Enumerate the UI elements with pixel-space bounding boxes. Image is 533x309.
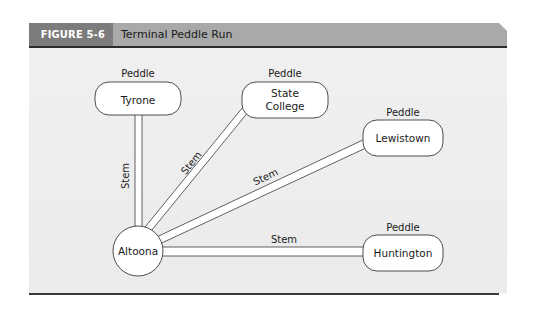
edge-label-huntington: Stem xyxy=(271,234,297,245)
node-lewistown: Lewistown Peddle xyxy=(363,107,443,156)
node-state-college: State College Peddle xyxy=(242,68,328,118)
node-huntington: Huntington Peddle xyxy=(363,222,443,271)
node-name-line1: State xyxy=(271,87,299,99)
node-name: Tyrone xyxy=(120,94,156,106)
node-type-label: Peddle xyxy=(386,107,419,118)
edge-tyrone xyxy=(135,100,142,232)
node-name-line2: College xyxy=(265,100,304,112)
node-tyrone: Tyrone Peddle xyxy=(95,68,181,115)
edge-state-college xyxy=(141,96,258,236)
edge-huntington xyxy=(150,247,368,256)
node-name: Huntington xyxy=(374,247,433,259)
node-type-label: Peddle xyxy=(121,68,154,79)
node-altoona-hub: Altoona xyxy=(113,226,163,276)
edge-label-tyrone: Stem xyxy=(120,163,131,189)
node-type-label: Peddle xyxy=(386,222,419,233)
hub-name: Altoona xyxy=(118,245,158,257)
node-type-label: Peddle xyxy=(268,68,301,79)
network-diagram: Tyrone Peddle State College Peddle Lewis… xyxy=(0,0,533,309)
node-name: Lewistown xyxy=(376,132,431,144)
